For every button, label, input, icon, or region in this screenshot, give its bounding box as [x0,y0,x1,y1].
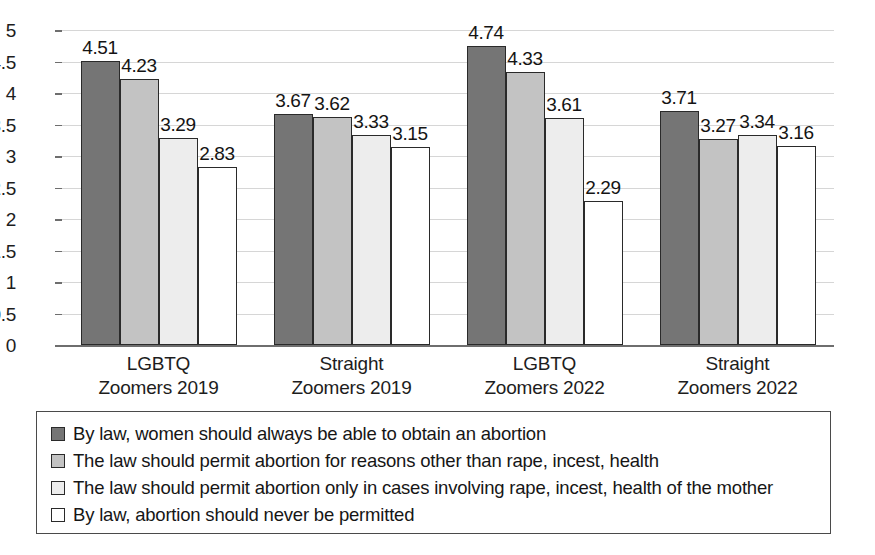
bar[interactable] [313,117,352,345]
legend-entry[interactable]: The law should permit abortion only in c… [51,475,830,501]
bar[interactable] [738,135,777,345]
legend-entry[interactable]: By law, women should always be able to o… [51,421,830,447]
chart-legend: By law, women should always be able to o… [36,411,831,534]
x-axis-category-label: StraightZoomers 2019 [255,352,448,400]
x-axis-category-label: LGBTQZoomers 2022 [448,352,641,400]
y-axis-tick-label: 4.5 [0,53,16,72]
y-axis-tick-label: 2.5 [0,179,16,198]
x-axis-category-line: Zoomers 2019 [255,376,448,400]
bar-value-label: 2.29 [578,178,629,197]
bar-value-label: 2.83 [192,144,243,163]
bar[interactable] [81,61,120,345]
bar-value-label: 3.71 [654,88,705,107]
bar[interactable] [777,146,816,345]
x-axis-category-line: Straight [255,352,448,376]
x-axis-category-line: Zoomers 2019 [62,376,255,400]
legend-entry[interactable]: By law, abortion should never be permitt… [51,502,830,528]
bar-value-label: 4.51 [75,38,126,57]
bar-value-label: 4.23 [114,56,165,75]
y-axis-tick-mark [55,282,62,284]
y-axis-tick-mark [55,156,62,158]
bar-group: 4.514.233.292.83 [62,30,255,345]
bar-value-label: 3.62 [307,94,358,113]
y-axis-tick-mark [55,219,62,221]
bar-value-label: 3.61 [539,95,590,114]
gridline [62,345,834,347]
x-axis-category-label: LGBTQZoomers 2019 [62,352,255,400]
bar-value-label: 4.33 [500,49,551,68]
grouped-bar-chart: 54.543.532.521.510.50 4.514.233.292.833.… [0,0,875,555]
y-axis-tick-mark [55,62,62,64]
y-axis-tick-label: 2 [0,210,16,229]
plot-area: 54.543.532.521.510.50 4.514.233.292.833.… [62,30,834,345]
bar[interactable] [274,114,313,345]
x-axis-category-line: LGBTQ [62,352,255,376]
y-axis-tick-label: 1.5 [0,242,16,261]
bar-value-label: 3.15 [385,124,436,143]
bar[interactable] [467,46,506,345]
y-axis-tick-mark [55,345,62,347]
x-axis-category-line: Zoomers 2022 [448,376,641,400]
y-axis-tick-mark [55,93,62,95]
x-axis-category-line: Zoomers 2022 [641,376,834,400]
bar[interactable] [584,201,623,345]
bar-value-label: 4.74 [461,23,512,42]
bar-value-label: 3.29 [153,115,204,134]
y-axis-tick-label: 1 [0,273,16,292]
y-axis-tick-label: 3.5 [0,116,16,135]
y-axis-tick-label: 3 [0,147,16,166]
legend-entry[interactable]: The law should permit abortion for reaso… [51,448,830,474]
legend-label: By law, women should always be able to o… [73,424,546,444]
y-axis-tick-mark [55,188,62,190]
bar[interactable] [699,139,738,345]
legend-swatch-icon [51,508,65,522]
y-axis-tick-mark [55,314,62,316]
y-axis-tick-mark [55,125,62,127]
bar[interactable] [391,147,430,345]
bar[interactable] [352,135,391,345]
bar-group: 4.744.333.612.29 [448,30,641,345]
y-axis-tick-label: 5 [0,21,16,40]
bar[interactable] [660,111,699,345]
y-axis-tick-label: 0 [0,336,16,355]
y-axis-tick-label: 0.5 [0,305,16,324]
legend-label: The law should permit abortion for reaso… [73,451,659,471]
bar[interactable] [545,118,584,345]
bar-group: 3.713.273.343.16 [641,30,834,345]
legend-swatch-icon [51,481,65,495]
legend-swatch-icon [51,454,65,468]
y-axis-tick-mark [55,251,62,253]
x-axis-category-label: StraightZoomers 2022 [641,352,834,400]
bar-group: 3.673.623.333.15 [255,30,448,345]
bars-layer: 4.514.233.292.833.673.623.333.154.744.33… [62,30,834,345]
y-axis-tick-mark [55,30,62,32]
bar[interactable] [198,167,237,345]
legend-label: By law, abortion should never be permitt… [73,505,414,525]
legend-swatch-icon [51,427,65,441]
bar-value-label: 3.16 [771,123,822,142]
legend-label: The law should permit abortion only in c… [73,478,773,498]
bar[interactable] [159,138,198,345]
x-axis-category-line: Straight [641,352,834,376]
x-axis-category-line: LGBTQ [448,352,641,376]
y-axis-tick-label: 4 [0,84,16,103]
